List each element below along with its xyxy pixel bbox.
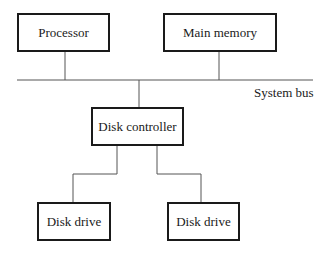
main-memory-label: Main memory: [183, 25, 257, 41]
processor-box: Processor: [17, 13, 110, 52]
disk-drive-2-box: Disk drive: [167, 202, 240, 241]
main-memory-box: Main memory: [163, 13, 277, 52]
disk-controller-box: Disk controller: [91, 107, 184, 146]
disk-controller-label: Disk controller: [98, 119, 176, 135]
system-bus-label: System bus: [254, 85, 314, 101]
processor-label: Processor: [38, 25, 89, 41]
controller-drive2-connector: [157, 145, 201, 202]
disk-drive-2-label: Disk drive: [176, 214, 231, 230]
disk-drive-1-label: Disk drive: [47, 214, 102, 230]
disk-drive-1-box: Disk drive: [37, 202, 111, 241]
controller-drive1-connector: [73, 145, 117, 202]
